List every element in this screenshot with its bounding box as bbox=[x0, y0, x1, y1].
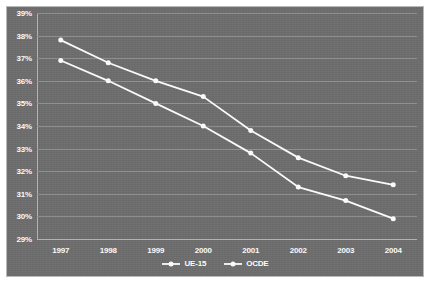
y-tick-label: 35% bbox=[17, 99, 32, 108]
y-tick-label: 30% bbox=[17, 212, 32, 221]
series-line-OCDE bbox=[61, 60, 394, 218]
legend-label: OCDE bbox=[246, 259, 268, 268]
y-tick-label: 39% bbox=[17, 9, 32, 18]
x-tick-label-1997: 1997 bbox=[52, 246, 69, 255]
plot-area: 39%38%37%36%35%34%33%32%31%30%29% 199719… bbox=[37, 13, 417, 239]
legend-entry-UE-15[interactable]: UE-15 bbox=[161, 259, 206, 268]
data-point-OCDE-2002 bbox=[296, 185, 301, 190]
series-plot bbox=[37, 13, 417, 239]
data-point-UE-15-1998 bbox=[106, 60, 111, 65]
line-chart-figure: 39%38%37%36%35%34%33%32%31%30%29% 199719… bbox=[6, 6, 424, 277]
y-tick-label: 36% bbox=[17, 76, 32, 85]
x-tick-label-2000: 2000 bbox=[195, 246, 212, 255]
legend-entry-OCDE[interactable]: OCDE bbox=[223, 259, 268, 268]
y-tick-label: 31% bbox=[17, 189, 32, 198]
data-point-UE-15-2001 bbox=[248, 128, 253, 133]
y-tick-label: 37% bbox=[17, 54, 32, 63]
data-point-UE-15-1997 bbox=[58, 38, 63, 43]
data-point-OCDE-2001 bbox=[248, 151, 253, 156]
data-point-OCDE-1998 bbox=[106, 78, 111, 83]
data-point-UE-15-2000 bbox=[201, 94, 206, 99]
x-tick-label-2002: 2002 bbox=[290, 246, 307, 255]
data-point-OCDE-2003 bbox=[343, 198, 348, 203]
legend-label: UE-15 bbox=[184, 259, 206, 268]
chart-legend: UE-15OCDE bbox=[7, 259, 423, 268]
y-tick-label: 33% bbox=[17, 144, 32, 153]
data-point-OCDE-1999 bbox=[153, 101, 158, 106]
y-tick-label: 29% bbox=[17, 235, 32, 244]
y-tick-label: 34% bbox=[17, 122, 32, 131]
data-point-UE-15-1999 bbox=[153, 78, 158, 83]
data-point-OCDE-1997 bbox=[58, 58, 63, 63]
legend-marker-icon bbox=[223, 260, 243, 268]
data-point-UE-15-2004 bbox=[391, 182, 396, 187]
x-tick-label-2003: 2003 bbox=[337, 246, 354, 255]
x-tick-label-1998: 1998 bbox=[100, 246, 117, 255]
y-tick-label: 38% bbox=[17, 31, 32, 40]
data-point-UE-15-2002 bbox=[296, 155, 301, 160]
data-point-OCDE-2000 bbox=[201, 124, 206, 129]
data-point-OCDE-2004 bbox=[391, 216, 396, 221]
data-point-UE-15-2003 bbox=[343, 173, 348, 178]
series-line-UE-15 bbox=[61, 40, 394, 185]
x-tick-label-2004: 2004 bbox=[385, 246, 402, 255]
y-tick-label: 32% bbox=[17, 167, 32, 176]
x-tick-label-1999: 1999 bbox=[147, 246, 164, 255]
legend-marker-icon bbox=[161, 260, 181, 268]
x-tick-label-2001: 2001 bbox=[242, 246, 259, 255]
gridline-29pct bbox=[37, 239, 417, 240]
